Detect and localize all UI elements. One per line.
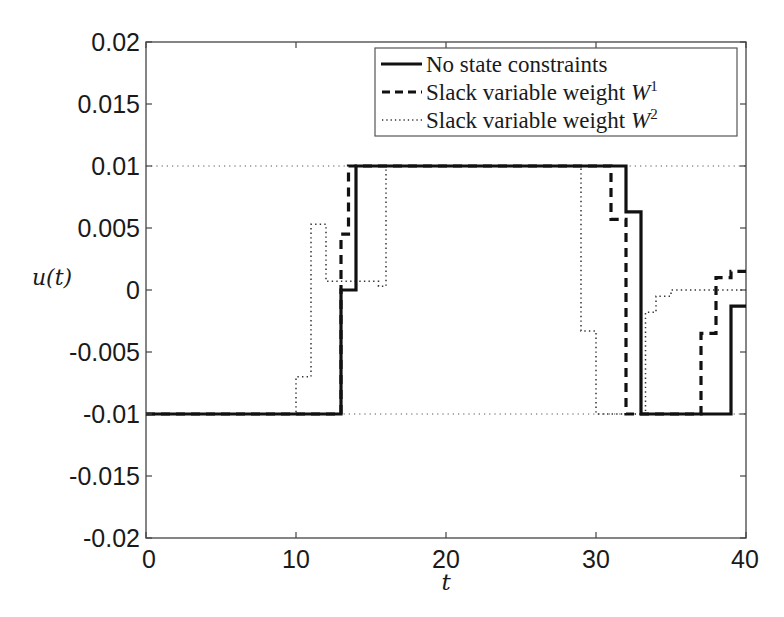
legend-label: Slack variable weight W1 (426, 78, 658, 105)
legend-label-superscript: 2 (650, 106, 658, 122)
y-tick-label: 0.005 (77, 214, 140, 242)
series-dotted-line (146, 166, 746, 414)
chart: 0.02 0.015 0.01 0.005 0 -0.005 -0.01 -0.… (0, 0, 784, 617)
legend-label-superscript: 1 (650, 78, 658, 94)
series-layer (146, 166, 746, 414)
y-tick-label: -0.02 (83, 524, 140, 552)
legend-label: Slack variable weight W2 (426, 106, 658, 133)
y-tick-labels: 0.02 0.015 0.01 0.005 0 -0.005 -0.01 -0.… (69, 28, 140, 552)
x-tick-label: 10 (282, 545, 310, 573)
y-tick-label: -0.01 (83, 400, 140, 428)
legend: No state constraints Slack variable weig… (375, 48, 737, 136)
legend-label-math: W (631, 80, 652, 105)
y-axis-label: u(t) (32, 265, 72, 290)
legend-label: No state constraints (426, 52, 607, 77)
legend-label-math: W (631, 108, 652, 133)
x-tick-label: 0 (142, 545, 156, 573)
y-tick-label: 0 (126, 276, 140, 304)
reference-lines (146, 166, 746, 414)
series-solid-line (146, 166, 746, 414)
x-axis-label: t (441, 569, 451, 595)
y-tick-label: 0.015 (77, 90, 140, 118)
y-tick-label: -0.015 (69, 462, 140, 490)
series-dashed-line (146, 166, 746, 414)
legend-label-text: Slack variable weight (426, 80, 631, 105)
y-tick-label: 0.02 (91, 28, 140, 56)
x-tick-label: 30 (582, 545, 610, 573)
y-tick-label: 0.01 (91, 152, 140, 180)
y-tick-label: -0.005 (69, 338, 140, 366)
legend-label-text: Slack variable weight (426, 108, 631, 133)
x-tick-label: 40 (731, 545, 759, 573)
